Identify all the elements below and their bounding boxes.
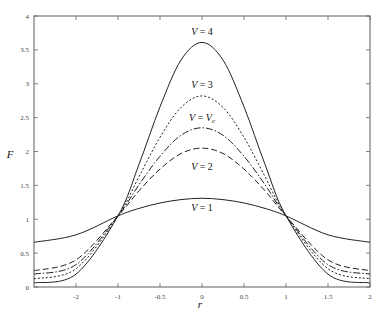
x-tick-label: 1.5 [324,293,333,301]
curve-label: V = 3 [191,79,213,90]
x-tick-label: -0.5 [154,293,166,301]
plot-frame [34,16,370,287]
y-axis-label: F [6,148,14,160]
x-tick-label: 2 [368,293,372,301]
x-tick-label: -2 [73,293,79,301]
y-tick-label: 4 [26,13,30,21]
y-tick-label: 3.5 [20,46,29,54]
curve-label: V = Vc [189,112,216,125]
y-tick-label: 0 [26,284,30,292]
y-tick-label: 1.5 [20,182,29,190]
x-tick-label: 1 [284,293,288,301]
x-axis-label: r [198,298,203,310]
curve-v-vc [34,128,370,274]
y-tick-label: 2 [26,148,30,156]
y-tick-label: 0.5 [20,250,29,258]
curve-label: V = 2 [191,161,213,172]
y-axis-ticks: 00.511.522.533.54 [20,13,370,292]
y-tick-label: 3 [26,80,30,88]
y-tick-label: 1 [26,216,30,224]
line-chart: -2-1-0.500.511.52 00.511.522.533.54 V = … [0,0,381,317]
y-tick-label: 2.5 [20,114,29,122]
plot-border [34,16,370,287]
curve-label: V = 4 [191,26,213,37]
curve-labels: V = 4V = 3V = VcV = 2V = 1 [189,26,216,213]
curve-label: V = 1 [191,202,213,213]
x-tick-label: -1 [115,293,121,301]
curve-v-3 [34,96,370,279]
x-tick-label: 0.5 [240,293,249,301]
